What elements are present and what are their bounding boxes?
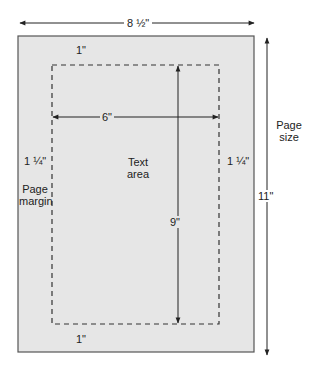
page-size-label: Page size — [275, 119, 303, 143]
text-height-label: 9" — [168, 216, 182, 228]
text-width-label: 6" — [100, 111, 114, 123]
page-margin-line2: margin — [19, 195, 51, 207]
page-margin-line1: Page — [19, 183, 51, 195]
bottom-margin-label: 1" — [76, 333, 86, 345]
page-margin-label: Page margin — [19, 183, 51, 207]
text-area-label: Text area — [121, 156, 155, 180]
text-area-line1: Text — [121, 156, 155, 168]
page-size-line2: size — [275, 131, 303, 143]
top-margin-label: 1" — [76, 44, 86, 56]
page-size-line1: Page — [275, 119, 303, 131]
right-margin-label: 1 ¼" — [227, 155, 249, 167]
text-area-line2: area — [121, 168, 155, 180]
left-margin-label: 1 ¼" — [24, 155, 46, 167]
page-width-label: 8 ½" — [124, 17, 152, 29]
page-height-label: 11" — [255, 190, 276, 202]
